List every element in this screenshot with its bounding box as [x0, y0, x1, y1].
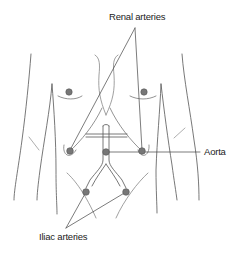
renal-leader-right [135, 28, 142, 150]
left-renal-dot [67, 148, 74, 155]
aorta-top [103, 125, 109, 127]
left-pec-line [58, 96, 82, 99]
iliac-arteries-label: Iliac arteries [39, 231, 87, 242]
iliac-leader-left [66, 192, 86, 228]
left-inner-contour-2 [52, 84, 57, 214]
right-nipple-dot [141, 89, 147, 95]
left-inguinal-line [67, 173, 96, 218]
aorta-dot [103, 149, 110, 156]
aorta-label: Aorta [204, 146, 226, 157]
torso-diagram [0, 0, 242, 254]
left-flank-crease [29, 137, 39, 150]
right-renal-dot [139, 148, 146, 155]
right-costal-margin [110, 108, 144, 153]
right-pec-line [130, 96, 156, 99]
aorta-right-wall [109, 126, 126, 188]
iliac-leader-right [66, 192, 126, 228]
left-outer-contour [14, 54, 31, 200]
renal-leader-left [70, 28, 135, 150]
aorta-left-wall [86, 126, 103, 188]
left-inner-contour [37, 84, 52, 200]
right-iliac-dot [123, 189, 130, 196]
right-inner-contour-2 [161, 84, 177, 200]
right-inner-contour [156, 84, 161, 213]
left-iliac-dot [83, 189, 90, 196]
right-outer-contour [182, 54, 199, 200]
left-nipple-dot [66, 89, 72, 95]
left-costal-margin [68, 108, 102, 153]
renal-arteries-label: Renal arteries [109, 11, 165, 22]
right-flank-crease [174, 128, 185, 138]
